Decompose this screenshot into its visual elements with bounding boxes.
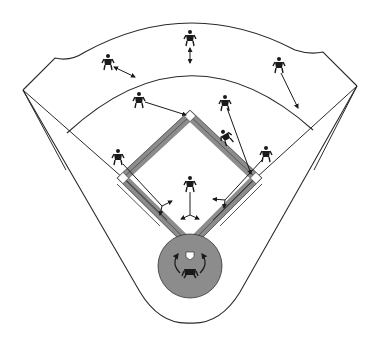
infield-arc	[67, 76, 313, 133]
home-plate-circle	[158, 234, 222, 298]
base-paths	[117, 110, 262, 250]
center-fielder	[184, 30, 196, 63]
left-fielder	[102, 54, 135, 77]
right-fielder	[273, 57, 298, 108]
shortstop	[133, 92, 186, 115]
pitcher	[181, 176, 199, 219]
first-baseman	[213, 146, 272, 208]
baseball-field-diagram	[0, 0, 379, 343]
